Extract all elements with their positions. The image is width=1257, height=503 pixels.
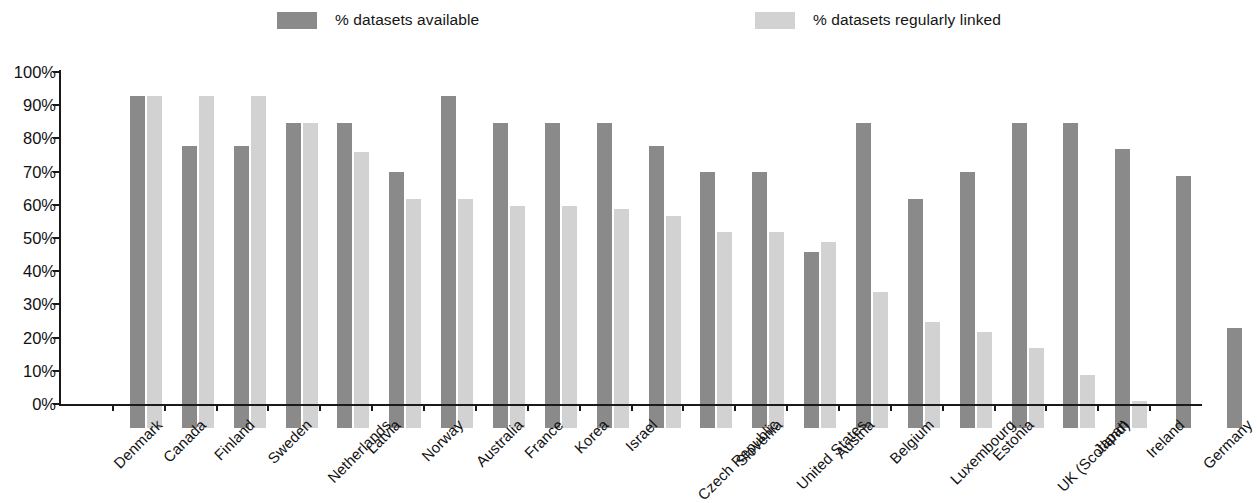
x-axis-tickmark bbox=[423, 404, 425, 411]
bar-group bbox=[587, 96, 639, 428]
bar-datasets-available bbox=[856, 123, 871, 428]
bar-datasets-regularly-linked bbox=[458, 199, 473, 428]
bar-group bbox=[846, 96, 898, 428]
x-axis-tickmark bbox=[786, 404, 788, 411]
bar-group bbox=[1105, 96, 1157, 428]
bar-group bbox=[690, 96, 742, 428]
bar-group bbox=[1209, 96, 1257, 428]
bar-group bbox=[327, 96, 379, 428]
x-axis-category-label: Japan bbox=[1090, 416, 1131, 457]
x-axis-tickmark bbox=[112, 404, 114, 411]
bar-datasets-regularly-linked bbox=[562, 206, 577, 428]
x-axis-tickmark bbox=[994, 404, 996, 411]
bar-datasets-available bbox=[337, 123, 352, 428]
bar-datasets-available bbox=[1176, 176, 1191, 428]
y-axis-tick-label: 0% bbox=[0, 395, 56, 414]
y-axis-tick-label: 40% bbox=[0, 262, 56, 281]
x-axis-tickmark bbox=[890, 404, 892, 411]
bar-group bbox=[898, 96, 950, 428]
bar-group bbox=[742, 96, 794, 428]
bar-datasets-available bbox=[804, 252, 819, 428]
bar-datasets-regularly-linked bbox=[769, 232, 784, 428]
y-axis-tick-label: 90% bbox=[0, 96, 56, 115]
bar-chart: 100%90%80%70%60%50%40%30%20%10%0% Denmar… bbox=[0, 48, 1207, 495]
x-axis-tickmark bbox=[216, 404, 218, 411]
legend-item-datasets-available: % datasets available bbox=[277, 9, 479, 31]
bar-group bbox=[1157, 96, 1209, 428]
x-axis-tickmark bbox=[1045, 404, 1047, 411]
bar-group bbox=[483, 96, 535, 428]
bar-datasets-available bbox=[130, 96, 145, 428]
bar-group bbox=[1053, 96, 1105, 428]
y-axis-tick-label: 10% bbox=[0, 361, 56, 380]
x-axis-tickmark bbox=[734, 404, 736, 411]
bar-datasets-available bbox=[389, 172, 404, 428]
x-axis-tickmark bbox=[942, 404, 944, 411]
bar-datasets-available bbox=[597, 123, 612, 428]
bar-group bbox=[535, 96, 587, 428]
bar-group bbox=[224, 96, 276, 428]
bar-datasets-available bbox=[182, 146, 197, 428]
y-axis-tick-label: 50% bbox=[0, 229, 56, 248]
x-axis-tickmark bbox=[838, 404, 840, 411]
bar-group bbox=[639, 96, 691, 428]
y-axis-tick-label: 60% bbox=[0, 195, 56, 214]
bar-datasets-available bbox=[1063, 123, 1078, 428]
x-axis-tickmark bbox=[319, 404, 321, 411]
x-axis-tickmark bbox=[1097, 404, 1099, 411]
bar-datasets-regularly-linked bbox=[406, 199, 421, 428]
bar-datasets-available bbox=[441, 96, 456, 428]
x-axis-tickmark bbox=[371, 404, 373, 411]
x-axis-category-label: Finland bbox=[210, 416, 257, 463]
bar-group bbox=[431, 96, 483, 428]
bar-datasets-regularly-linked bbox=[614, 209, 629, 428]
bar-group bbox=[794, 96, 846, 428]
x-axis-tickmark bbox=[527, 404, 529, 411]
x-axis-category-label: Denmark bbox=[110, 416, 166, 472]
x-axis-category-label: Canada bbox=[160, 416, 210, 466]
x-axis-tickmarks bbox=[60, 404, 1201, 412]
x-axis-tickmark bbox=[682, 404, 684, 411]
x-axis-tickmark bbox=[1149, 404, 1151, 411]
bar-datasets-available bbox=[752, 172, 767, 428]
bar-datasets-regularly-linked bbox=[821, 242, 836, 428]
bar-datasets-available bbox=[908, 199, 923, 428]
x-axis-tickmark bbox=[475, 404, 477, 411]
bar-datasets-available bbox=[1115, 149, 1130, 428]
bar-datasets-regularly-linked bbox=[251, 96, 266, 428]
plot-area bbox=[60, 72, 1201, 404]
x-axis-category-label: Sweden bbox=[264, 416, 315, 467]
legend-swatch-available bbox=[277, 12, 317, 29]
y-axis-labels: 100%90%80%70%60%50%40%30%20%10%0% bbox=[0, 72, 56, 404]
x-axis-category-label: Latvia bbox=[363, 416, 404, 457]
y-axis-tick-label: 20% bbox=[0, 328, 56, 347]
legend-label-available: % datasets available bbox=[335, 11, 479, 29]
bar-datasets-available bbox=[286, 123, 301, 428]
x-axis-tickmark bbox=[631, 404, 633, 411]
x-axis-tickmark bbox=[579, 404, 581, 411]
bar-groups bbox=[120, 96, 1257, 428]
bar-datasets-regularly-linked bbox=[717, 232, 732, 428]
bar-datasets-available bbox=[1012, 123, 1027, 428]
x-axis-tickmark bbox=[267, 404, 269, 411]
bar-datasets-available bbox=[234, 146, 249, 428]
bar-group bbox=[379, 96, 431, 428]
legend-label-linked: % datasets regularly linked bbox=[813, 11, 1001, 29]
bar-datasets-available bbox=[649, 146, 664, 428]
bar-group bbox=[172, 96, 224, 428]
x-axis-category-label: France bbox=[521, 416, 566, 461]
bar-datasets-regularly-linked bbox=[666, 216, 681, 428]
x-axis-category-label: Belgium bbox=[886, 416, 937, 467]
bar-datasets-regularly-linked bbox=[147, 96, 162, 428]
x-axis-category-label: Norway bbox=[418, 416, 466, 464]
x-axis-category-label: Slovenia bbox=[732, 416, 785, 469]
bar-datasets-regularly-linked bbox=[199, 96, 214, 428]
bar-datasets-available bbox=[1227, 328, 1242, 428]
bar-datasets-available bbox=[960, 172, 975, 428]
chart-legend: % datasets available % datasets regularl… bbox=[0, 0, 1207, 48]
bar-datasets-regularly-linked bbox=[354, 152, 369, 428]
bar-datasets-available bbox=[545, 123, 560, 428]
x-axis-category-label: Australia bbox=[473, 416, 527, 470]
x-axis-category-label: Israel bbox=[622, 416, 660, 454]
x-axis-labels: DenmarkCanadaFinlandSwedenNetherlandsLat… bbox=[60, 412, 1201, 495]
